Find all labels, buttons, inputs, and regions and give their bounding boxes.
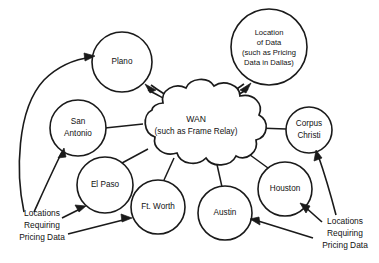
corpus-christi-circle [286,107,332,153]
ft-worth-label: Ft. Worth [141,202,175,211]
location-of-data-line-2: of Data [257,38,282,47]
site-san-antonio: San Antonio [50,100,106,156]
callout-left-line-3: Pricing Data [19,232,65,242]
wan-cloud: WAN (such as Frame Relay) [145,79,266,164]
spoke-el-paso [122,149,148,163]
spoke-ft-worth [164,158,174,180]
callout-left-arrow-to-ft-worth [68,219,127,234]
callout-right-arrow-to-corpus-christi [318,155,336,215]
site-ft-worth: Ft. Worth [131,180,185,234]
san-antonio-circle [50,100,106,156]
callout-left-line-2: Requiring [24,220,60,230]
callout-right-line-3: Pricing Data [322,240,368,250]
site-austin: Austin [198,186,252,240]
san-antonio-label-line-2: Antonio [64,129,92,138]
wan-cloud-label-sub: (such as Frame Relay) [155,127,238,136]
corpus-christi-label-line-1: Corpus [296,119,322,128]
location-of-data-line-4: Data in Dallas) [244,58,294,67]
location-of-data-line-3: (such as Pricing [242,48,296,57]
austin-label: Austin [214,208,237,217]
callout-left-label: Locations Requiring Pricing Data [19,208,65,242]
callout-right-line-1: Locations [327,216,363,226]
callout-left-line-1: Locations [24,208,60,218]
site-corpus-christi: Corpus Christi [286,107,332,153]
location-of-data-line-1: Location [255,28,284,37]
location-of-data-node: Location of Data (such as Pricing Data i… [231,9,307,85]
corpus-christi-label-line-2: Christi [297,131,320,140]
callout-right-label: Locations Requiring Pricing Data [322,216,368,250]
wan-cloud-label-main: WAN [186,114,206,124]
site-el-paso: El Paso [77,157,133,213]
arrowhead-plano [145,84,156,93]
el-paso-label: El Paso [91,180,120,189]
plano-label: Plano [112,57,133,66]
location-of-data-circle [231,9,307,85]
san-antonio-label-line-1: San [71,117,86,126]
arrowhead-location-of-data [240,83,251,93]
callout-right-arrow-to-austin [255,220,313,238]
arrowhead-left-ft-worth [121,214,132,222]
wan-diagram: WAN (such as Frame Relay) Location of Da… [0,0,379,263]
callout-right-line-2: Requiring [327,228,363,238]
diagram-canvas: WAN (such as Frame Relay) Location of Da… [0,0,379,263]
houston-label: Houston [270,184,301,193]
spoke-san-antonio [105,124,143,128]
callout-left-arrow-to-san-antonio [34,152,62,212]
site-plano: Plano [92,32,152,92]
